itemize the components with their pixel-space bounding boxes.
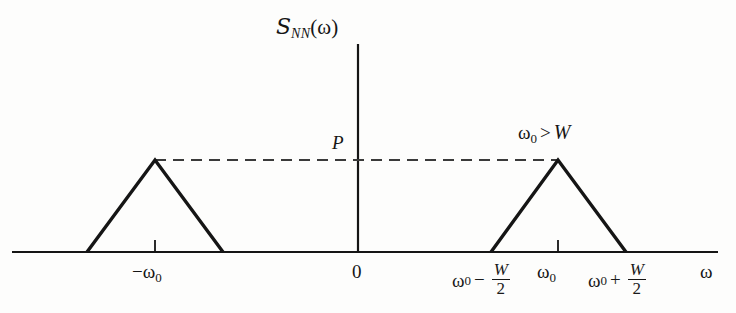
lower-edge-denominator: 2 [495, 280, 508, 298]
negative-omega-subscript: 0 [155, 270, 162, 285]
x-axis-label: ω [700, 262, 713, 281]
positive-omega-subscript: 0 [550, 270, 557, 285]
upper-edge-fraction: W 2 [628, 261, 646, 298]
condition-bandwidth-w: W [554, 121, 571, 143]
lower-edge-numerator: W [492, 261, 510, 279]
amplitude-label-p: P [332, 133, 344, 152]
psd-figure: SNN(ω) P ω0>W −ω0 0 ω0 − W 2 ω0 ω0 + W 2… [0, 0, 736, 313]
y-axis-label: SNN(ω) [276, 16, 338, 41]
upper-edge-numerator: W [628, 261, 646, 279]
lower-edge-fraction: W 2 [492, 261, 510, 298]
condition-omega: ω [518, 122, 531, 143]
lower-edge-omega: ω [452, 270, 465, 292]
negative-omega-symbol: ω [143, 261, 156, 282]
positive-frequency-triangle [491, 160, 626, 252]
origin-label: 0 [352, 262, 362, 281]
positive-omega-symbol: ω [537, 261, 550, 282]
negative-sign: − [132, 261, 143, 282]
upper-edge-omega: ω [588, 270, 601, 292]
y-axis-symbol: S [276, 14, 291, 39]
greater-than-operator: > [537, 122, 554, 143]
tick-label-positive-omega0: ω0 [537, 262, 556, 284]
y-axis-subscript: NN [291, 26, 310, 41]
tick-label-lower-band-edge: ω0 − W 2 [452, 262, 510, 299]
tick-label-upper-band-edge: ω0 + W 2 [588, 262, 646, 299]
upper-edge-denominator: 2 [631, 280, 644, 298]
condition-annotation: ω0>W [518, 122, 570, 145]
y-axis-argument: (ω) [310, 15, 338, 39]
negative-frequency-triangle [87, 160, 223, 252]
upper-edge-operator: + [607, 269, 624, 291]
tick-label-negative-omega0: −ω0 [132, 262, 162, 284]
lower-edge-operator: − [471, 269, 488, 291]
